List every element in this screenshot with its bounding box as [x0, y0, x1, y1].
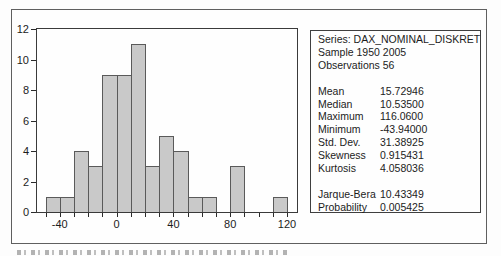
stats-row: Kurtosis4.058036: [318, 162, 476, 175]
stat-value: 116.0600: [380, 110, 423, 123]
x-axis-tick: [287, 213, 288, 217]
stats-row: Std. Dev.31.38925: [318, 136, 476, 149]
y-axis-label: 10: [17, 54, 29, 66]
histogram-bar: [145, 166, 160, 212]
stat-label: Std. Dev.: [318, 136, 380, 149]
stats-row: Maximum116.0600: [318, 110, 476, 123]
x-axis-tick: [88, 213, 89, 217]
x-axis-tick: [159, 213, 160, 217]
y-axis-label: 4: [23, 145, 29, 157]
stats-row: Skewness0.915431: [318, 149, 476, 162]
stat-label: Jarque-Bera: [318, 188, 380, 201]
histogram-bar: [102, 75, 118, 212]
stat-value: 15.72946: [380, 85, 424, 98]
histogram-bar: [202, 197, 217, 212]
y-axis-tick: [31, 29, 36, 30]
histogram-bar: [46, 197, 61, 212]
x-axis-tick: [74, 213, 75, 217]
x-axis-label: 0: [114, 218, 120, 230]
stat-value: -43.94000: [380, 123, 427, 136]
x-axis-tick: [273, 213, 274, 217]
y-axis-label: 6: [23, 115, 29, 127]
histogram-bar: [173, 151, 189, 212]
y-axis-tick: [31, 151, 36, 152]
stat-label: Kurtosis: [318, 162, 380, 175]
stats-header-line: Observations 56: [318, 59, 476, 72]
histogram-bar: [131, 44, 146, 212]
x-axis-label: 80: [224, 218, 236, 230]
stat-value: 4.058036: [380, 162, 424, 175]
histogram-bar: [60, 197, 75, 212]
stats-row: Mean15.72946: [318, 85, 476, 98]
stats-row: Probability0.005425: [318, 201, 476, 214]
stats-header-line: Sample 1950 2005: [318, 46, 476, 59]
x-axis-tick: [244, 213, 245, 217]
figure-frame: -4004080120024681012 Series: DAX_NOMINAL…: [11, 9, 487, 244]
x-axis-tick: [230, 213, 231, 217]
stats-row: Minimum-43.94000: [318, 123, 476, 136]
y-axis-tick: [31, 121, 36, 122]
stat-value: 31.38925: [380, 136, 424, 149]
x-axis-tick: [202, 213, 203, 217]
y-axis-label: 8: [23, 84, 29, 96]
x-axis-tick: [131, 213, 132, 217]
stat-label: Mean: [318, 85, 380, 98]
histogram-bar: [117, 75, 132, 212]
histogram-bar: [88, 166, 103, 212]
x-axis-tick: [60, 213, 61, 217]
stats-header-line: Series: DAX_NOMINAL_DISKRET: [318, 33, 476, 46]
figure-canvas: -4004080120024681012 Series: DAX_NOMINAL…: [0, 0, 501, 256]
stat-label: Median: [318, 98, 380, 111]
histogram-bar: [273, 197, 288, 212]
x-axis-label: -40: [52, 218, 68, 230]
stat-value: 10.53500: [380, 98, 424, 111]
y-axis-label: 12: [17, 23, 29, 35]
x-axis-tick: [145, 213, 146, 217]
x-axis-tick: [173, 213, 174, 217]
y-axis-tick: [31, 90, 36, 91]
x-axis-tick: [188, 213, 189, 217]
stats-row: Median10.53500: [318, 98, 476, 111]
x-axis-tick: [102, 213, 103, 217]
y-axis-tick: [31, 60, 36, 61]
stats-row: Jarque-Bera10.43349: [318, 188, 476, 201]
stat-label: Maximum: [318, 110, 380, 123]
x-axis-tick: [117, 213, 118, 217]
cropped-caption-remnant: [17, 250, 290, 255]
y-axis-label: 0: [23, 206, 29, 218]
stat-value: 0.005425: [380, 201, 424, 214]
histogram-bar: [74, 151, 89, 212]
stat-value: 0.915431: [380, 149, 424, 162]
stat-label: Skewness: [318, 149, 380, 162]
stats-spacer-row: [318, 72, 476, 85]
histogram-bar: [230, 166, 245, 212]
stats-spacer-row: [318, 175, 476, 188]
stats-panel: Series: DAX_NOMINAL_DISKRETSample 1950 2…: [310, 30, 481, 213]
x-axis-tick: [216, 213, 217, 217]
x-axis-tick: [46, 213, 47, 217]
plot-area: -4004080120024681012: [36, 28, 298, 213]
y-axis-tick: [31, 212, 36, 213]
histogram-bar: [188, 197, 203, 212]
x-axis-label: 120: [278, 218, 296, 230]
stat-label: Probability: [318, 201, 380, 214]
x-axis-label: 40: [167, 218, 179, 230]
stat-value: 10.43349: [380, 188, 424, 201]
y-axis-tick: [31, 182, 36, 183]
y-axis-label: 2: [23, 176, 29, 188]
stat-label: Minimum: [318, 123, 380, 136]
x-axis-tick: [259, 213, 260, 217]
histogram-bar: [159, 136, 174, 212]
